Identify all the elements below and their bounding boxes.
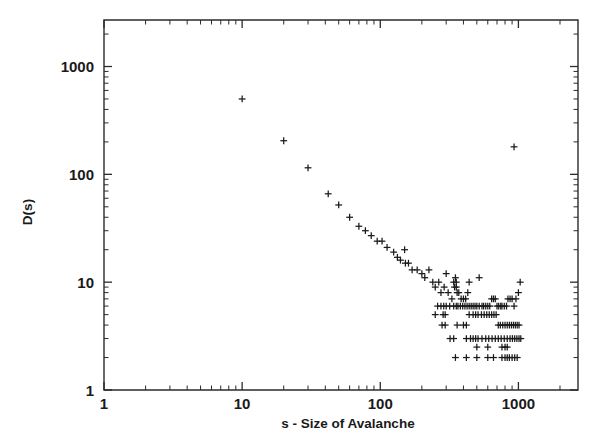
y-tick-label: 100 — [69, 166, 94, 183]
x-tick-label: 1 — [100, 395, 108, 412]
x-tick-label: 100 — [368, 395, 393, 412]
y-tick-label: 10 — [77, 274, 94, 291]
x-tick-label: 10 — [234, 395, 251, 412]
y-axis-title: D(s) — [20, 199, 35, 225]
plot-canvas: 1101001000 1101001000 s - Size of Avalan… — [0, 0, 610, 444]
avalanche-size-distribution-figure: 1101001000 1101001000 s - Size of Avalan… — [0, 0, 610, 444]
y-tick-label: 1000 — [61, 58, 94, 75]
x-tick-label: 1000 — [502, 395, 535, 412]
x-axis-title: s - Size of Avalanche — [281, 416, 415, 431]
y-tick-label: 1 — [86, 382, 94, 399]
